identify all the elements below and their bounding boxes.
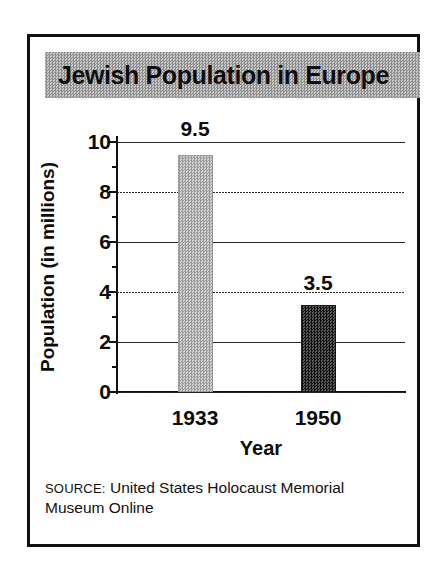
figure-page: Jewish Population in Europe Population (… xyxy=(0,0,437,573)
source-note: SOURCE: United States Holocaust Memorial… xyxy=(45,478,395,518)
y-tick-minor xyxy=(112,216,117,218)
y-tick-minor xyxy=(112,266,117,268)
y-axis-line xyxy=(116,136,118,394)
y-axis-title: Population (in millions) xyxy=(33,142,63,392)
y-tick-label: 2 xyxy=(99,330,111,354)
gridline xyxy=(117,242,405,243)
y-tick-label: 8 xyxy=(99,180,111,204)
x-tick-label: 1933 xyxy=(172,406,219,430)
y-tick-minor xyxy=(112,166,117,168)
bar-1950[interactable]: 3.51950 xyxy=(301,305,336,393)
y-tick-label: 10 xyxy=(88,130,111,154)
y-tick-label: 4 xyxy=(99,280,111,304)
y-tick-label: 6 xyxy=(99,230,111,254)
source-keyword: SOURCE: xyxy=(45,481,106,496)
plot-area: 0246810 9.519333.51950 xyxy=(117,142,405,392)
gridline xyxy=(117,292,405,293)
chart-title: Jewish Population in Europe xyxy=(45,61,389,90)
y-tick-label: 0 xyxy=(99,380,111,404)
y-tick-minor xyxy=(112,366,117,368)
x-axis-title: Year xyxy=(117,437,405,460)
bar-value-label: 9.5 xyxy=(180,117,209,141)
gridline xyxy=(117,342,405,343)
x-tick-label: 1950 xyxy=(295,406,342,430)
bar-value-label: 3.5 xyxy=(303,271,332,295)
gridline xyxy=(117,192,405,193)
gridline xyxy=(117,392,405,393)
bar-1933[interactable]: 9.51933 xyxy=(178,155,213,393)
y-tick-minor xyxy=(112,316,117,318)
gridline xyxy=(117,142,405,143)
chart-title-band: Jewish Population in Europe xyxy=(45,52,420,98)
